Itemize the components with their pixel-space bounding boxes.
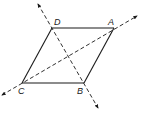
vertex-label-b: B [77,86,83,96]
vertex-labels: ABCD [18,17,114,96]
rhombus-diagram: ABCD [0,0,141,115]
vertex-label-c: C [18,86,25,96]
vertex-label-a: A [107,17,114,27]
side-AB [84,28,114,83]
vertex-label-d: D [54,17,61,27]
line-DB-dashed [38,4,98,108]
